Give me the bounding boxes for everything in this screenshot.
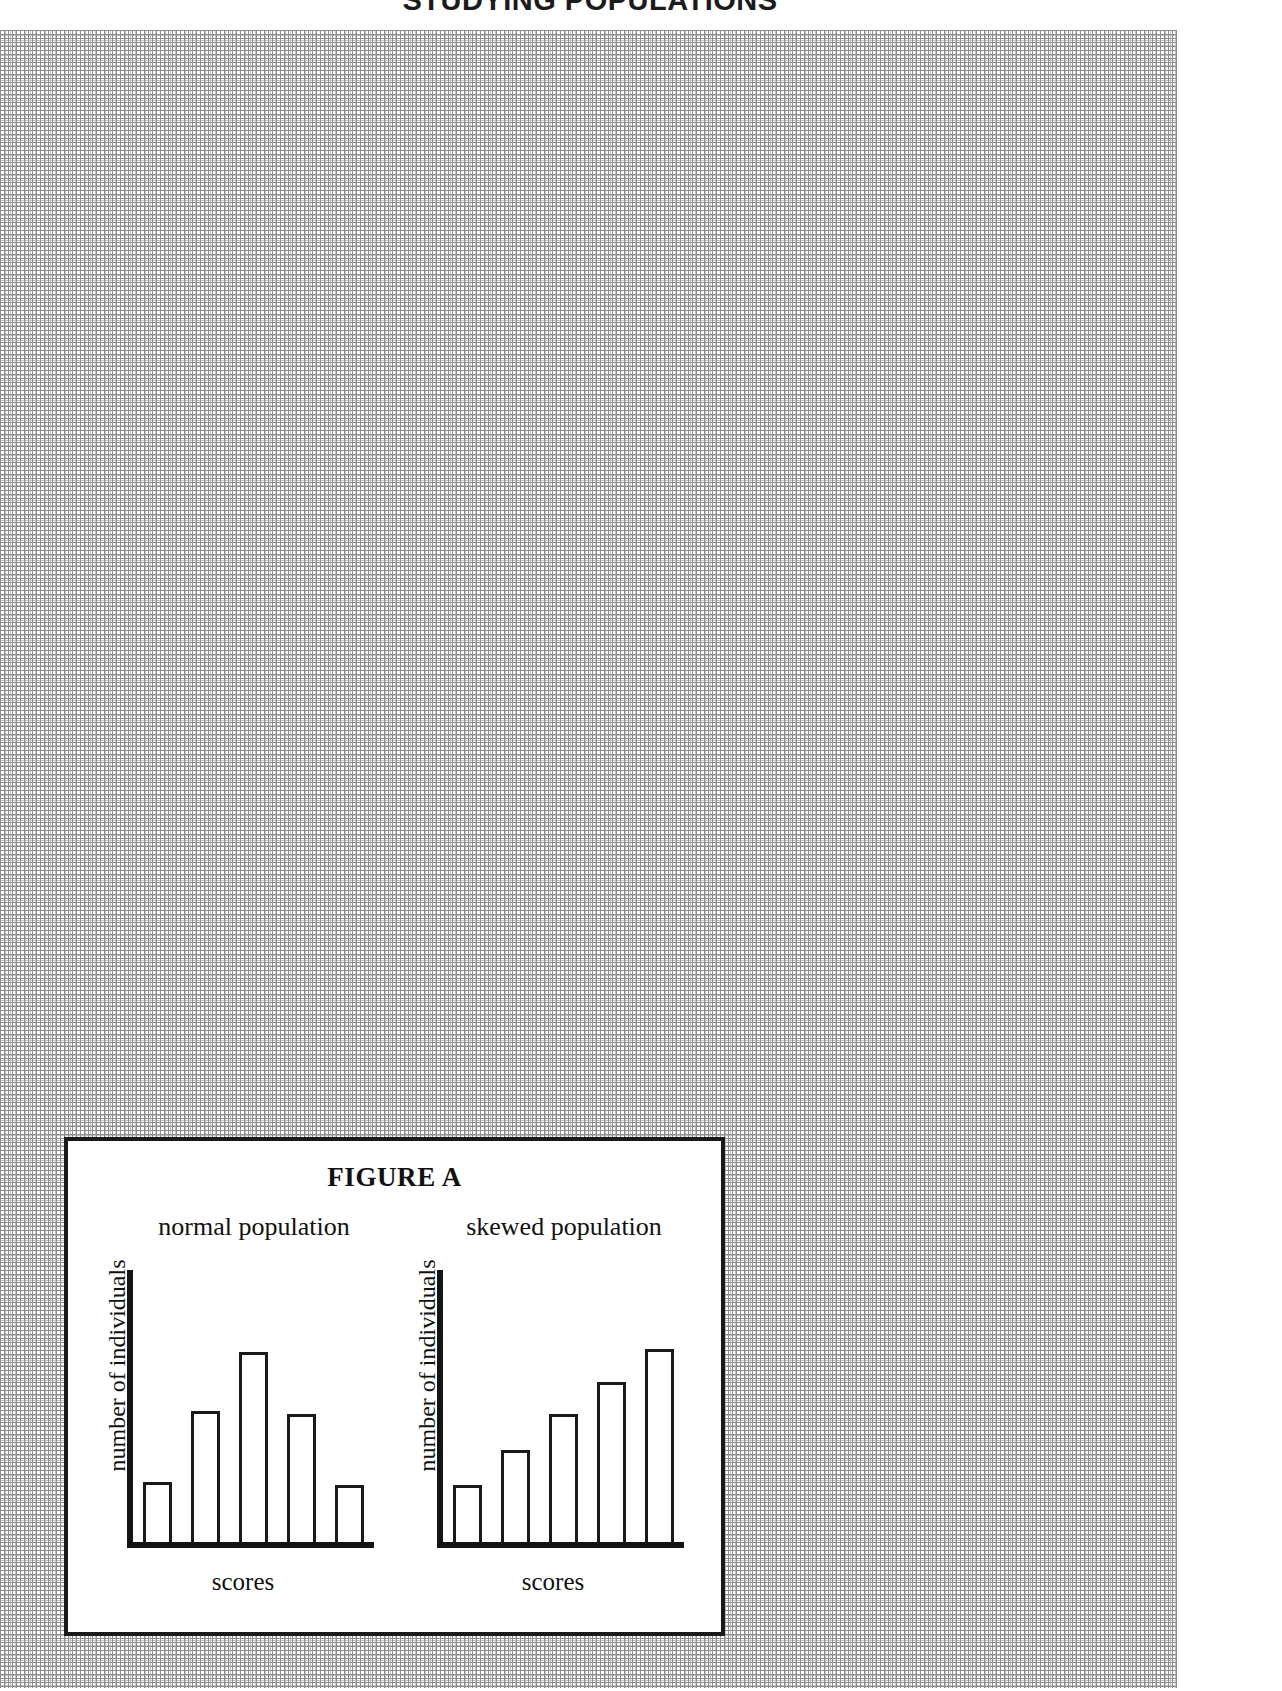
bar (597, 1382, 626, 1542)
bar (239, 1352, 268, 1542)
chart-title-normal: normal population (118, 1212, 390, 1242)
bar (143, 1482, 172, 1542)
x-axis-label-normal: scores (118, 1568, 368, 1596)
bar (501, 1450, 530, 1542)
bar (645, 1349, 674, 1542)
figure-title: FIGURE A (68, 1162, 721, 1193)
x-axis-label-skewed: scores (428, 1568, 678, 1596)
chart-panel-skewed-population: skewed population number of individuals … (390, 1212, 700, 1612)
bar-group-normal (133, 1270, 374, 1542)
bar (549, 1414, 578, 1542)
page-title: STUDYING POPULATIONS (0, 0, 1180, 17)
bar (191, 1411, 220, 1542)
plot-area-skewed (437, 1270, 684, 1548)
page-root: STUDYING POPULATIONS FIGURE A normal pop… (0, 0, 1282, 1691)
figure-a-box: FIGURE A normal population number of ind… (64, 1137, 725, 1636)
x-axis-line-skewed (437, 1542, 684, 1548)
chart-panel-normal-population: normal population number of individuals … (80, 1212, 390, 1612)
bar (335, 1485, 364, 1542)
plot-area-normal (127, 1270, 374, 1548)
bar (287, 1414, 316, 1542)
x-axis-line-normal (127, 1542, 374, 1548)
chart-title-skewed: skewed population (428, 1212, 700, 1242)
bar (453, 1485, 482, 1542)
bar-group-skewed (443, 1270, 684, 1542)
